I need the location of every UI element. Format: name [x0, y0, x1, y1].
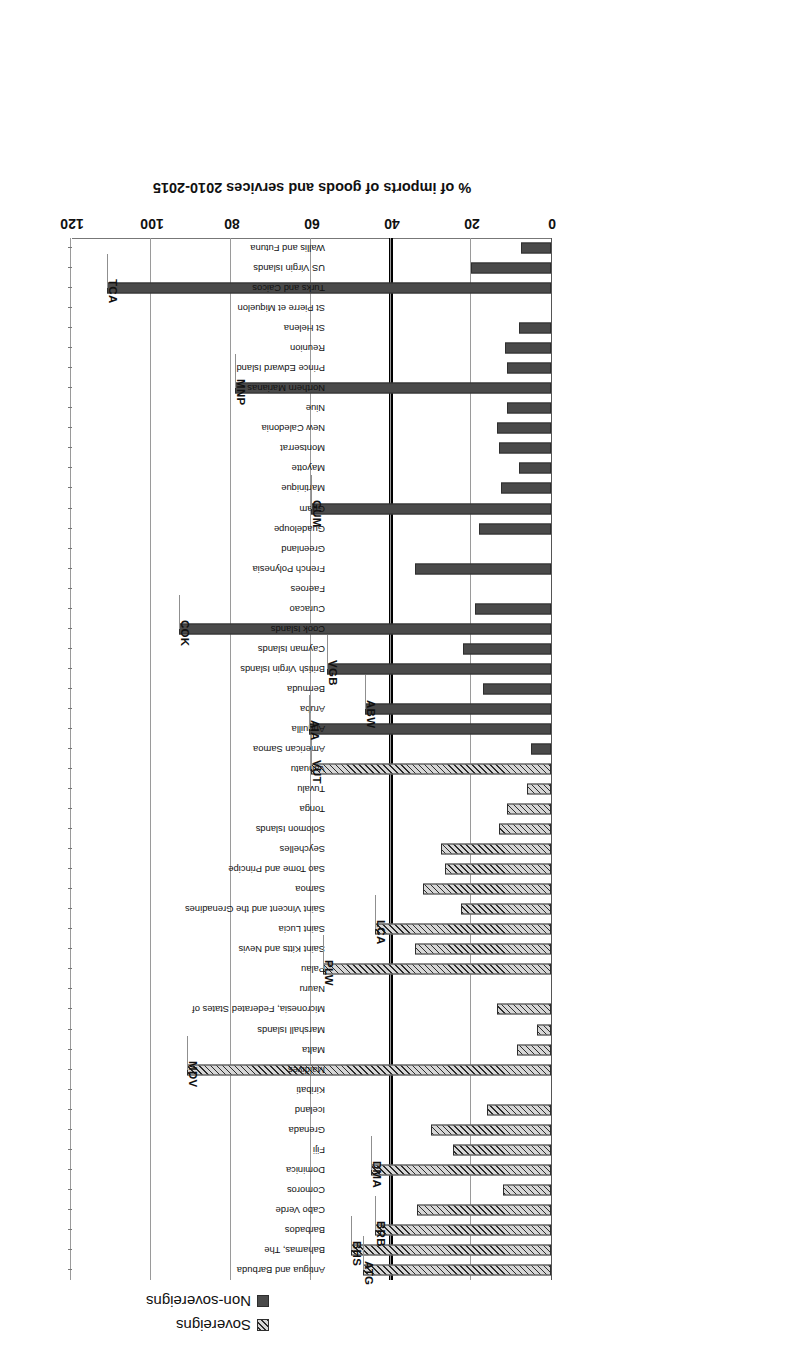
category-label: Marshall Islands	[257, 1025, 325, 1034]
category-tick	[68, 928, 72, 929]
iso-code-leader-line	[187, 1036, 188, 1070]
bar-comoros	[503, 1184, 551, 1195]
plot-area	[72, 238, 552, 1280]
category-label: Cayman Islands	[258, 644, 325, 653]
bar-st-helena	[519, 323, 551, 334]
bar-samoa	[423, 884, 551, 895]
category-label: Nauru	[299, 985, 325, 994]
legend-swatch-non-sovereigns	[257, 1296, 269, 1308]
bar-palau	[323, 964, 551, 975]
category-tick	[68, 1109, 72, 1110]
category-tick	[68, 487, 72, 488]
category-label: Malta	[302, 1045, 325, 1054]
bar-solomon-islands	[499, 824, 551, 835]
category-tick	[68, 988, 72, 989]
bar-niue	[507, 403, 551, 414]
category-label: Bermuda	[287, 684, 325, 693]
bar-tonga	[507, 804, 551, 815]
gridline-120	[70, 238, 71, 1280]
category-tick	[68, 387, 72, 388]
category-tick	[68, 1069, 72, 1070]
category-label: Faeroes	[291, 584, 325, 593]
category-tick	[68, 828, 72, 829]
category-label: Barbados	[285, 1226, 325, 1235]
category-tick	[68, 648, 72, 649]
iso-code-leader-line	[365, 675, 366, 709]
category-tick	[68, 568, 72, 569]
category-tick	[68, 327, 72, 328]
category-tick	[68, 788, 72, 789]
bar-barbados	[375, 1224, 551, 1235]
iso-code-vgb: VGB	[327, 660, 339, 686]
category-label: Tonga	[299, 805, 325, 814]
bar-anguilla	[309, 723, 551, 734]
category-label: Cook Islands	[271, 624, 325, 633]
category-label: Northern Marianas	[247, 384, 325, 393]
iso-code-leader-line	[309, 695, 310, 729]
category-tick	[68, 888, 72, 889]
category-label: Comoros	[287, 1185, 325, 1194]
bar-vanuatu	[311, 764, 551, 775]
category-label: Micronesia, Federated States of	[192, 1005, 325, 1014]
category-tick	[68, 467, 72, 468]
iso-code-leader-line	[311, 475, 312, 509]
category-tick	[68, 968, 72, 969]
iso-code-vut: VUT	[311, 760, 323, 784]
bar-new-caledonia	[497, 423, 551, 434]
category-tick	[68, 768, 72, 769]
bar-guam	[311, 503, 551, 514]
bar-tuvalu	[527, 784, 551, 795]
category-label: Grenada	[289, 1125, 325, 1134]
iso-code-cok: COK	[179, 620, 191, 646]
category-tick	[68, 548, 72, 549]
bar-cayman-islands	[463, 643, 551, 654]
category-tick	[68, 1209, 72, 1210]
category-label: Martinique	[281, 484, 325, 493]
category-tick	[68, 628, 72, 629]
iso-code-gum: GUM	[311, 500, 323, 528]
category-tick	[68, 848, 72, 849]
iso-code-leader-line	[323, 935, 324, 969]
category-label: Saint Vincent and the Grenadines	[185, 905, 325, 914]
iso-code-aia: AIA	[309, 720, 321, 741]
bar-seychelles	[441, 844, 551, 855]
category-tick	[68, 808, 72, 809]
bar-reunion	[505, 343, 551, 354]
category-tick	[68, 1269, 72, 1270]
category-tick	[68, 688, 72, 689]
category-tick	[68, 728, 72, 729]
bar-cook-islands	[179, 623, 551, 634]
category-label: Fiji	[313, 1145, 325, 1154]
category-label: Greenland	[281, 544, 325, 553]
bar-marshall-islands	[537, 1024, 551, 1035]
category-tick	[68, 1229, 72, 1230]
category-tick	[68, 447, 72, 448]
iso-code-leader-line	[371, 1136, 372, 1170]
axis-tick-40: 40	[384, 216, 400, 232]
iso-code-plw: PLW	[323, 960, 335, 986]
axis-tick-100: 100	[140, 216, 163, 232]
bar-wallis-and-futuna	[521, 243, 551, 254]
category-label: Dominica	[286, 1165, 325, 1174]
chart-legend: SovereignsNon-sovereigns	[146, 1293, 269, 1334]
iso-code-abw: ABW	[365, 700, 377, 728]
category-tick	[68, 367, 72, 368]
iso-code-mnp: MNP	[235, 379, 247, 405]
bar-sao-tome-and-principe	[445, 864, 551, 875]
bar-saint-kitts-and-nevis	[415, 944, 551, 955]
iso-code-leader-line	[363, 1236, 364, 1270]
category-tick	[68, 948, 72, 949]
bar-maldives	[187, 1064, 551, 1075]
category-label: Cabo Verde	[275, 1205, 325, 1214]
bar-saint-lucia	[375, 924, 551, 935]
category-label: Bahamas, The	[264, 1246, 325, 1255]
axis-tick-80: 80	[224, 216, 240, 232]
iso-code-leader-line	[327, 635, 328, 669]
category-tick	[68, 708, 72, 709]
bar-martinique	[501, 483, 551, 494]
category-label: Saint Kitts and Nevis	[239, 945, 326, 954]
bar-grenada	[431, 1124, 551, 1135]
category-tick	[68, 1008, 72, 1009]
category-tick	[68, 1049, 72, 1050]
bar-saint-vincent-and-the-grenadines	[461, 904, 551, 915]
